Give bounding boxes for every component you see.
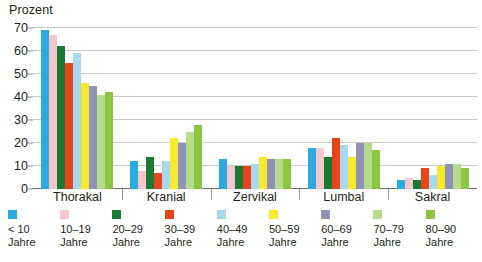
bar (405, 178, 413, 190)
bar-chart: Prozent 010203040506070 ThorakalKranialZ… (0, 0, 482, 262)
bar (89, 86, 97, 190)
y-axis-tick-mark (28, 74, 33, 75)
bar-groups (33, 28, 477, 189)
legend-swatch-icon (217, 210, 226, 219)
legend-swatch-icon (60, 210, 69, 219)
bar (227, 166, 235, 189)
bar (57, 46, 65, 189)
x-axis-category-label: Kranial (122, 190, 211, 204)
bar (372, 150, 380, 189)
x-axis-category-label: Lumbal (299, 190, 388, 204)
bar (348, 157, 356, 189)
category-separator (299, 189, 300, 200)
y-axis-tick-mark (28, 166, 33, 167)
y-axis-tick-label: 0 (2, 182, 28, 196)
category-separator (122, 189, 123, 200)
bar (445, 164, 453, 189)
bar-group (308, 28, 380, 189)
bar-group (397, 28, 469, 189)
bar-group (41, 28, 113, 189)
bar (81, 83, 89, 189)
legend-swatch-icon (8, 210, 17, 219)
x-axis-category-label: Zervikal (211, 190, 300, 204)
y-axis-tick-label: 50 (2, 67, 28, 81)
legend-swatch-icon (426, 210, 435, 219)
bar (283, 159, 291, 189)
bar (49, 35, 57, 189)
bar (146, 157, 154, 189)
bar (308, 148, 316, 189)
bar (453, 164, 461, 189)
y-axis-tick-label: 60 (2, 44, 28, 58)
legend-swatch-icon (165, 210, 174, 219)
bar (397, 180, 405, 189)
chart-legend: < 10Jahre10–19Jahre20–29Jahre30–39Jahre4… (0, 210, 482, 262)
y-axis-tick-label: 70 (2, 21, 28, 35)
y-axis-tick-label: 10 (2, 159, 28, 173)
bar (105, 92, 113, 189)
bar (243, 166, 251, 189)
bar (275, 159, 283, 189)
bar (219, 159, 227, 189)
bar (178, 143, 186, 189)
bar-group (219, 28, 291, 189)
legend-swatch-icon (321, 210, 330, 219)
y-axis-tick-label: 30 (2, 113, 28, 127)
y-axis-tick-label: 40 (2, 90, 28, 104)
bar (461, 168, 469, 189)
bar (356, 143, 364, 189)
legend-swatch-icon (112, 210, 121, 219)
bar (324, 157, 332, 189)
bar (97, 95, 105, 189)
y-axis-tick-mark (28, 120, 33, 121)
bar (364, 143, 372, 189)
y-axis-tick-mark (28, 28, 33, 29)
legend-swatch-icon (269, 210, 278, 219)
bar (413, 180, 421, 189)
legend-label-unit: Jahre (426, 236, 482, 249)
bar (162, 161, 170, 189)
bar (65, 63, 73, 190)
y-axis-tick-mark (28, 97, 33, 98)
bar (41, 30, 49, 189)
bar (267, 159, 275, 189)
bar (251, 164, 259, 189)
bar (316, 148, 324, 189)
bar (437, 166, 445, 189)
bar (170, 138, 178, 189)
bar (130, 161, 138, 189)
bar (429, 175, 437, 189)
bar (73, 53, 81, 189)
bar (421, 168, 429, 189)
bar (259, 157, 267, 189)
y-axis-tick-label: 20 (2, 136, 28, 150)
legend-swatch-icon (373, 210, 382, 219)
bar (138, 171, 146, 189)
x-axis-category-label: Sakral (388, 190, 477, 204)
bar (332, 138, 340, 189)
legend-item[interactable]: 80–90Jahre (426, 210, 482, 249)
category-separator (211, 189, 212, 200)
legend-label-range: 80–90 (426, 223, 482, 236)
bar (154, 173, 162, 189)
x-axis-category-label: Thorakal (33, 190, 122, 204)
plot-area (33, 28, 477, 189)
bar (186, 132, 194, 190)
category-separator (388, 189, 389, 200)
bar (235, 166, 243, 189)
bar-group (130, 28, 202, 189)
y-axis-title: Prozent (9, 3, 53, 17)
y-axis-tick-mark (28, 143, 33, 144)
bar (340, 145, 348, 189)
y-axis-tick-mark (28, 51, 33, 52)
bar (194, 125, 202, 189)
